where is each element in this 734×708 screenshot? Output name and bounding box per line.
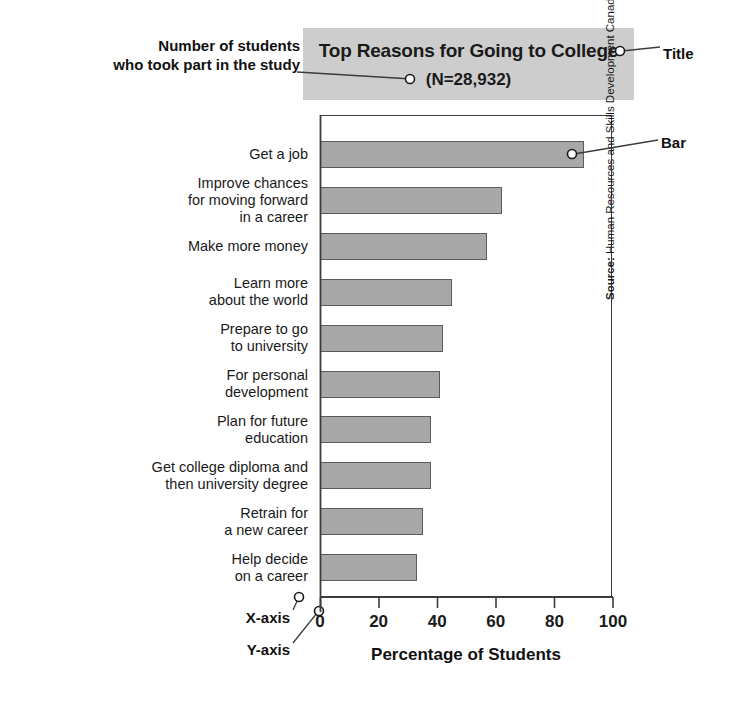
source-text: Human Resources and Skills Development C… — [604, 0, 616, 257]
bar — [320, 416, 431, 443]
x-axis-tick-label: 60 — [476, 612, 516, 632]
x-axis-tick-label: 20 — [359, 612, 399, 632]
bar — [320, 187, 502, 214]
bar — [320, 554, 417, 581]
category-label-text: Prepare to go to university — [68, 321, 308, 355]
annotation-y-axis-callout: Y-axis — [150, 640, 290, 659]
bar — [320, 233, 487, 260]
leader-line-x-axis — [293, 599, 298, 610]
category-label-text: Get a job — [68, 146, 308, 163]
category-label-text: Retrain for a new career — [68, 505, 308, 539]
x-axis-tick-label: 80 — [534, 612, 574, 632]
category-label-text: Help decide on a career — [68, 551, 308, 585]
category-label-text: Plan for future education — [68, 413, 308, 447]
x-axis-tick-label: 0 — [300, 612, 340, 632]
bar — [320, 462, 431, 489]
category-label-text: For personal development — [68, 367, 308, 401]
annotation-x-axis-callout: X-axis — [150, 608, 290, 627]
bar — [320, 141, 584, 168]
chart-page: Top Reasons for Going to College (N=28,9… — [0, 0, 734, 708]
chart-subtitle: (N=28,932) — [303, 70, 634, 90]
annotation-sample-size: Number of students who took part in the … — [10, 36, 300, 74]
category-label-text: Make more money — [68, 238, 308, 255]
annotation-title-callout: Title — [663, 44, 694, 63]
source-prefix: Source: — [604, 257, 616, 300]
bar — [320, 325, 443, 352]
x-axis-tick-label: 40 — [417, 612, 457, 632]
bar — [320, 371, 440, 398]
category-label-text: Get college diploma and then university … — [68, 459, 308, 493]
source-note: Source: Human Resources and Skills Devel… — [604, 0, 616, 300]
chart-title: Top Reasons for Going to College — [303, 40, 634, 62]
x-axis-title: Percentage of Students — [320, 645, 612, 665]
leader-dot-x-axis — [295, 593, 304, 602]
annotation-bar-callout: Bar — [661, 133, 686, 152]
bar — [320, 279, 452, 306]
category-label-text: Improve chances for moving forward in a … — [68, 175, 308, 226]
category-label-text: Learn more about the world — [68, 275, 308, 309]
x-axis-tick-label: 100 — [593, 612, 633, 632]
bar — [320, 508, 423, 535]
x-axis-tick-marks — [321, 597, 614, 608]
